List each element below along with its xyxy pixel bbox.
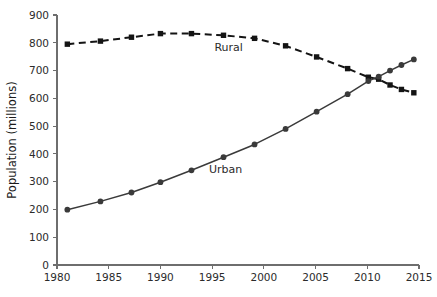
x-tick-label: 1985 — [95, 271, 122, 283]
y-tick-label: 600 — [29, 92, 49, 104]
data-point-rural — [387, 82, 392, 87]
data-point-urban — [64, 207, 70, 213]
data-point-urban — [221, 154, 227, 160]
data-point-rural — [252, 36, 257, 41]
y-tick-label: 100 — [29, 231, 49, 243]
x-tick-label: 2005 — [302, 271, 329, 283]
y-tick-label: 500 — [29, 120, 49, 132]
y-axis-title: Population (millions) — [5, 81, 19, 198]
data-series-group — [64, 31, 416, 213]
data-point-urban — [387, 68, 393, 74]
y-tick-label: 800 — [29, 37, 49, 49]
data-point-urban — [365, 78, 371, 84]
data-point-urban — [411, 57, 417, 63]
data-point-urban — [189, 167, 195, 173]
data-point-urban — [283, 126, 289, 132]
x-tick-label: 2015 — [406, 271, 433, 283]
x-axis: 19801985199019952000200520102015 — [44, 265, 433, 283]
data-point-rural — [345, 66, 350, 71]
y-tick-label: 400 — [29, 148, 49, 160]
data-point-urban — [158, 179, 164, 185]
data-point-urban — [129, 190, 135, 196]
series-line-urban — [67, 59, 413, 209]
data-point-urban — [314, 109, 320, 115]
data-point-urban — [98, 198, 104, 204]
data-point-urban — [252, 142, 258, 148]
x-tick-label: 1980 — [44, 271, 71, 283]
x-tick-label: 1995 — [199, 271, 226, 283]
data-point-urban — [345, 91, 351, 97]
series-label-rural: Rural — [214, 41, 242, 54]
x-tick-label: 2010 — [354, 271, 381, 283]
data-point-rural — [129, 35, 134, 40]
data-point-rural — [98, 38, 103, 43]
y-axis: 0100200300400500600700800900 — [29, 9, 57, 271]
data-point-rural — [314, 54, 319, 59]
y-tick-label: 200 — [29, 203, 49, 215]
data-point-urban — [376, 74, 382, 80]
data-point-rural — [189, 31, 194, 36]
y-tick-label: 700 — [29, 64, 49, 76]
series-label-urban: Urban — [209, 163, 242, 176]
data-point-rural — [158, 31, 163, 36]
data-point-rural — [411, 90, 416, 95]
population-line-chart: 0100200300400500600700800900 19801985199… — [0, 0, 437, 297]
x-tick-label: 2000 — [250, 271, 277, 283]
y-tick-label: 900 — [29, 9, 49, 21]
data-point-rural — [221, 33, 226, 38]
data-point-rural — [283, 43, 288, 48]
chart-canvas: 0100200300400500600700800900 19801985199… — [0, 0, 437, 297]
y-tick-label: 300 — [29, 175, 49, 187]
data-point-urban — [399, 62, 405, 68]
y-tick-label: 0 — [42, 259, 49, 271]
data-point-rural — [399, 87, 404, 92]
data-point-rural — [65, 41, 70, 46]
x-tick-label: 1990 — [147, 271, 174, 283]
